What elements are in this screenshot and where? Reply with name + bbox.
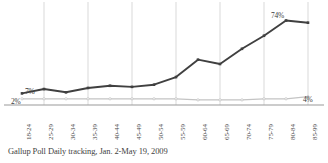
x-tick-label: 45-49	[135, 124, 143, 140]
data-point-marker	[109, 98, 111, 100]
x-tick-label: 85-99	[311, 124, 319, 140]
data-point-marker	[87, 87, 90, 90]
data-point-marker	[175, 98, 177, 100]
data-label-peak: 74%	[271, 12, 284, 20]
data-point-marker	[241, 48, 244, 51]
data-point-marker	[285, 19, 288, 22]
data-point-marker	[263, 98, 265, 100]
data-point-marker	[131, 86, 134, 89]
plot-area: 2% 7% 74% 4%	[0, 0, 328, 112]
x-tick-label: 55-59	[179, 124, 187, 140]
data-label-start-high: 7%	[25, 88, 35, 96]
data-point-marker	[153, 98, 155, 100]
data-point-marker	[109, 84, 112, 87]
data-point-marker	[285, 98, 287, 100]
data-point-marker	[219, 63, 222, 66]
data-point-marker	[43, 98, 45, 100]
x-tick-label: 75-79	[267, 124, 275, 140]
x-tick-label: 65-69	[223, 124, 231, 140]
series-line-primary	[22, 21, 308, 94]
x-tick-label: 70-74	[245, 124, 253, 140]
data-point-marker	[175, 76, 178, 79]
data-point-marker	[21, 98, 23, 100]
x-axis-tick-labels: 18-2425-2930-3435-3940-4445-4950-5455-59…	[0, 111, 328, 143]
data-point-marker	[21, 92, 24, 95]
data-point-marker	[197, 99, 199, 101]
data-point-marker	[131, 98, 133, 100]
x-tick-label: 18-24	[25, 124, 33, 140]
x-tick-label: 50-54	[157, 124, 165, 140]
line-chart: 2% 7% 74% 4% 18-2425-2930-3435-3940-4445…	[0, 0, 328, 163]
data-point-marker	[263, 34, 266, 37]
x-tick-label: 60-64	[201, 124, 209, 140]
x-tick-label: 30-34	[69, 124, 77, 140]
data-point-marker	[219, 99, 221, 101]
data-label-start-low: 2%	[11, 98, 21, 106]
data-label-end-low: 4%	[303, 96, 313, 104]
data-point-marker	[65, 91, 68, 94]
data-point-marker	[197, 58, 200, 61]
series-primary-line	[21, 19, 310, 94]
data-point-marker	[87, 98, 89, 100]
data-point-marker	[65, 98, 67, 100]
x-tick-label: 35-39	[91, 124, 99, 140]
data-point-marker	[307, 21, 310, 24]
chart-caption: Gallup Poll Daily tracking, Jan. 2-May 1…	[8, 146, 168, 156]
x-tick-label: 80-84	[289, 124, 297, 140]
x-tick-label: 25-29	[47, 124, 55, 140]
data-point-marker	[43, 88, 46, 91]
series-secondary-line	[21, 96, 309, 102]
x-tick-label: 40-44	[113, 124, 121, 140]
data-point-marker	[153, 83, 156, 86]
data-point-marker	[241, 99, 243, 101]
